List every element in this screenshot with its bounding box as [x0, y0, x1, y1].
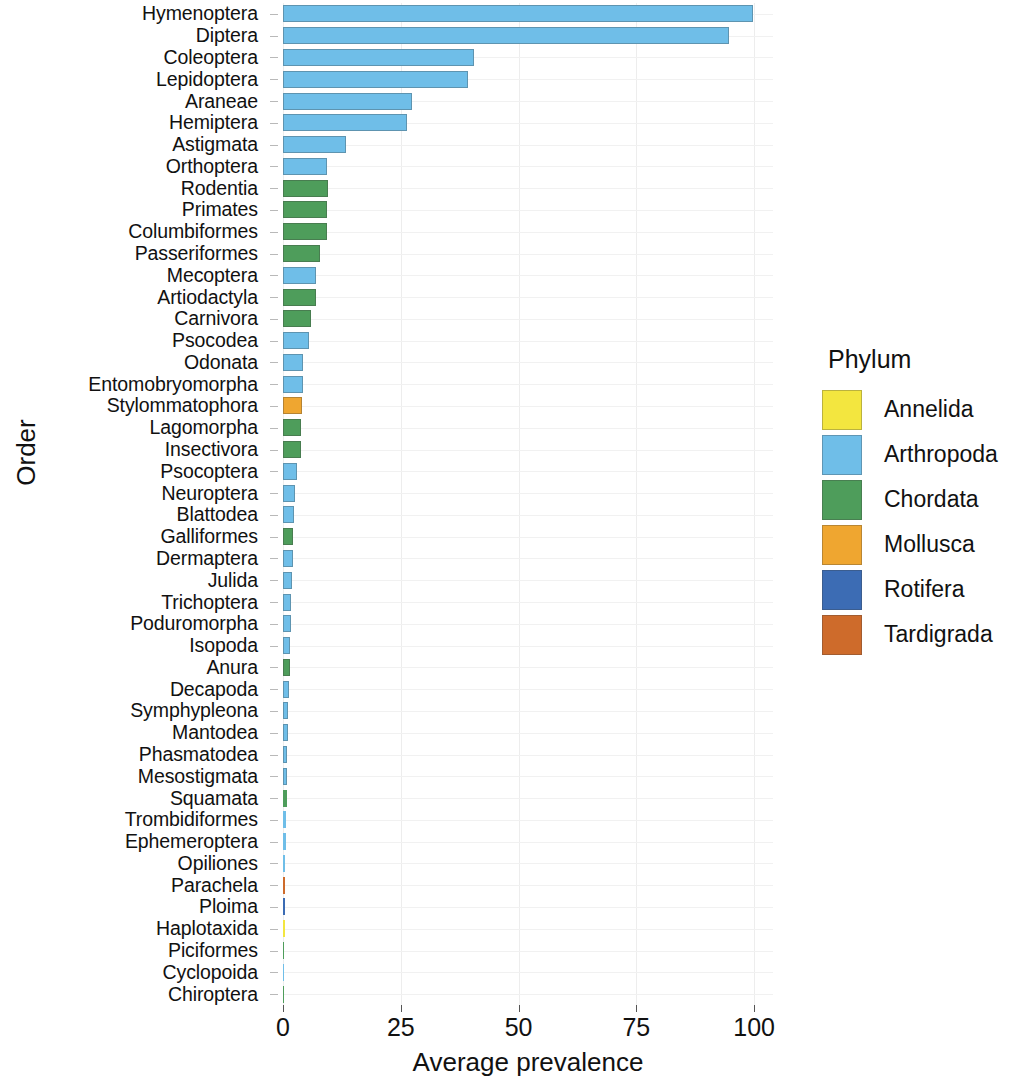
y-axis-tick-mark — [270, 929, 278, 930]
gridline-horizontal — [283, 428, 773, 429]
gridline-horizontal — [283, 275, 773, 276]
gridline-horizontal — [283, 384, 773, 385]
bar — [283, 942, 284, 959]
y-axis-tick-mark — [270, 667, 278, 668]
y-axis-tick-label: Passeriformes — [0, 244, 258, 264]
legend-item[interactable]: Annelida — [822, 387, 1014, 432]
y-axis-tick-label: Piciformes — [0, 941, 258, 961]
x-axis-tick-label: 25 — [361, 1014, 441, 1040]
gridline-horizontal — [283, 733, 773, 734]
y-axis-tick-mark — [270, 36, 278, 37]
gridline-horizontal — [283, 558, 773, 559]
bar — [283, 790, 287, 807]
gridline-horizontal — [283, 341, 773, 342]
gridline-vertical — [754, 3, 755, 1005]
bar — [283, 964, 284, 981]
y-axis-tick-label: Mesostigmata — [0, 767, 258, 787]
y-axis-tick-mark — [270, 210, 278, 211]
y-axis-tick-label: Hemiptera — [0, 113, 258, 133]
gridline-horizontal — [283, 667, 773, 668]
y-axis-tick-mark — [270, 798, 278, 799]
gridline-horizontal — [283, 689, 773, 690]
gridline-horizontal — [283, 776, 773, 777]
y-axis-tick-label: Parachela — [0, 876, 258, 896]
y-axis-tick-label: Odonata — [0, 353, 258, 373]
gridline-horizontal — [283, 406, 773, 407]
y-axis-tick-label: Symphypleona — [0, 701, 258, 721]
gridline-horizontal — [283, 798, 773, 799]
bar — [283, 898, 285, 915]
bar — [283, 986, 284, 1003]
gridline-horizontal — [283, 493, 773, 494]
y-axis-tick-mark — [270, 275, 278, 276]
bar — [283, 223, 327, 240]
y-axis-tick-label: Ephemeroptera — [0, 832, 258, 852]
gridline-horizontal — [283, 145, 773, 146]
gridline-horizontal — [283, 537, 773, 538]
y-axis-tick-label: Insectivora — [0, 440, 258, 460]
bar — [283, 506, 294, 523]
legend-item[interactable]: Tardigrada — [822, 612, 1014, 657]
x-axis-tick-mark — [283, 1005, 284, 1012]
y-axis-tick-label: Galliformes — [0, 527, 258, 547]
bar — [283, 93, 412, 110]
gridline-horizontal — [283, 711, 773, 712]
gridline-horizontal — [283, 755, 773, 756]
gridline-horizontal — [283, 994, 773, 995]
legend-color-swatch — [822, 570, 862, 610]
gridline-horizontal — [283, 624, 773, 625]
legend-item-label: Annelida — [884, 396, 974, 423]
y-axis-tick-mark — [270, 428, 278, 429]
legend-item[interactable]: Chordata — [822, 477, 1014, 522]
gridline-horizontal — [283, 602, 773, 603]
legend-item-label: Mollusca — [884, 531, 975, 558]
legend-item[interactable]: Mollusca — [822, 522, 1014, 567]
legend-color-swatch — [822, 525, 862, 565]
y-axis-tick-label: Carnivora — [0, 309, 258, 329]
y-axis-tick-mark — [270, 319, 278, 320]
y-axis-tick-label: Rodentia — [0, 179, 258, 199]
y-axis-tick-mark — [270, 123, 278, 124]
y-axis-tick-mark — [270, 755, 278, 756]
gridline-horizontal — [283, 362, 773, 363]
y-axis-tick-mark — [270, 820, 278, 821]
y-axis-tick-mark — [270, 341, 278, 342]
bar — [283, 49, 474, 66]
y-axis-tick-mark — [270, 537, 278, 538]
y-axis-tick-label: Cyclopoida — [0, 963, 258, 983]
gridline-horizontal — [283, 471, 773, 472]
y-axis-tick-label: Orthoptera — [0, 157, 258, 177]
legend-color-swatch — [822, 390, 862, 430]
bar — [283, 245, 320, 262]
bar — [283, 659, 290, 676]
y-axis-tick-mark — [270, 711, 278, 712]
x-axis-tick-mark — [754, 1005, 755, 1012]
y-axis-tick-mark — [270, 689, 278, 690]
bar — [283, 5, 753, 22]
gridline-horizontal — [283, 210, 773, 211]
y-axis-tick-label: Poduromorpha — [0, 614, 258, 634]
x-axis: 0255075100 — [283, 1005, 773, 1045]
bar — [283, 594, 291, 611]
y-axis-tick-mark — [270, 79, 278, 80]
y-axis-tick-mark — [270, 297, 278, 298]
gridline-horizontal — [283, 232, 773, 233]
y-axis-tick-label: Entomobryomorpha — [0, 375, 258, 395]
gridline-horizontal — [283, 820, 773, 821]
bar — [283, 485, 295, 502]
bar — [283, 637, 290, 654]
y-axis-tick-mark — [270, 863, 278, 864]
legend-item[interactable]: Arthropoda — [822, 432, 1014, 477]
bar — [283, 114, 407, 131]
bar — [283, 332, 309, 349]
legend-item-label: Arthropoda — [884, 441, 998, 468]
x-axis-tick-mark — [401, 1005, 402, 1012]
bar — [283, 136, 346, 153]
y-axis-tick-mark — [270, 493, 278, 494]
bar — [283, 397, 302, 414]
bar — [283, 572, 292, 589]
y-axis-tick-mark — [270, 471, 278, 472]
legend-color-swatch — [822, 435, 862, 475]
y-axis-tick-mark — [270, 362, 278, 363]
legend-item[interactable]: Rotifera — [822, 567, 1014, 612]
